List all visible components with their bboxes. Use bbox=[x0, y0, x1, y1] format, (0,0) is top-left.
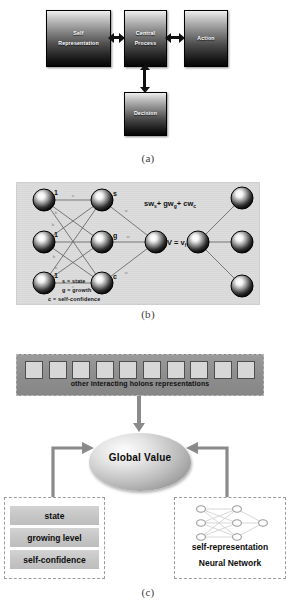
block-central-process: Central Process bbox=[124, 10, 167, 67]
panel-a-cognitive-architecture: Self Representation Central Process Acti… bbox=[0, 0, 296, 175]
input-node-2-label: 1 bbox=[54, 231, 58, 238]
block-central-process-line2: Process bbox=[135, 39, 157, 49]
block-self-representation: Self Representation bbox=[46, 10, 111, 67]
svg-text:w: w bbox=[124, 270, 128, 275]
svg-text:w: w bbox=[126, 234, 130, 239]
svg-text:b: b bbox=[52, 222, 55, 227]
hidden-node-g-label: g bbox=[113, 232, 117, 240]
caption-a: (a) bbox=[0, 152, 296, 164]
block-self-representation-line2: Representation bbox=[58, 39, 99, 49]
panel-b-legend-growth: g = growth bbox=[62, 287, 91, 293]
svg-text:b: b bbox=[53, 254, 56, 259]
block-action-line1: Action bbox=[197, 34, 214, 44]
block-decision: Decision bbox=[124, 92, 167, 136]
input-node-1-label: 1 bbox=[54, 189, 58, 196]
block-decision-line1: Decision bbox=[134, 109, 157, 119]
block-central-process-line1: Central bbox=[135, 29, 157, 39]
hidden-node-s-label: s bbox=[113, 190, 117, 197]
hidden-node-c-label: c bbox=[113, 273, 117, 280]
panel-b-network-svg: a b b b b b b c w w w 1 1 1 bbox=[16, 182, 258, 303]
mini-neural-network-svg bbox=[189, 503, 273, 543]
panel-b-neural-network: a b b b b b b c w w w 1 1 1 bbox=[0, 178, 296, 326]
arrow-central-to-decision-icon bbox=[143, 69, 146, 88]
block-self-representation-line1: Self bbox=[58, 29, 99, 39]
svg-text:b: b bbox=[55, 265, 58, 270]
self-representation-label-line2: Neural Network bbox=[175, 558, 285, 568]
arrow-self-to-central-icon bbox=[113, 36, 120, 39]
attribute-growing-level: growing level bbox=[10, 528, 99, 547]
panel-b-value-label: V = vf bbox=[167, 238, 187, 248]
attribute-self-confidence: self-confidence bbox=[10, 550, 99, 569]
svg-text:b: b bbox=[55, 210, 58, 215]
panel-b-legend-self-confidence: c = self-confidence bbox=[48, 296, 100, 302]
panel-b-formula: sws+ gwg+ cwc bbox=[144, 199, 196, 209]
caption-b: (b) bbox=[0, 308, 296, 320]
self-representation-label-line1: self-representation bbox=[175, 542, 285, 552]
attributes-box: state growing level self-confidence bbox=[4, 497, 105, 579]
block-action: Action bbox=[184, 10, 228, 67]
caption-c: (c) bbox=[0, 586, 296, 598]
panel-b-legend-state: s = state bbox=[62, 278, 86, 284]
global-value-label: Global Value bbox=[89, 452, 191, 463]
panel-c-global-value: other interacting holons representations… bbox=[0, 330, 296, 609]
attribute-state: state bbox=[10, 506, 99, 525]
input-node-3-label: 1 bbox=[54, 272, 58, 279]
arrow-central-to-action-icon bbox=[170, 36, 180, 39]
svg-text:a: a bbox=[72, 193, 75, 198]
self-representation-network-box: self-representation Neural Network bbox=[174, 497, 286, 579]
svg-text:w: w bbox=[124, 208, 128, 213]
